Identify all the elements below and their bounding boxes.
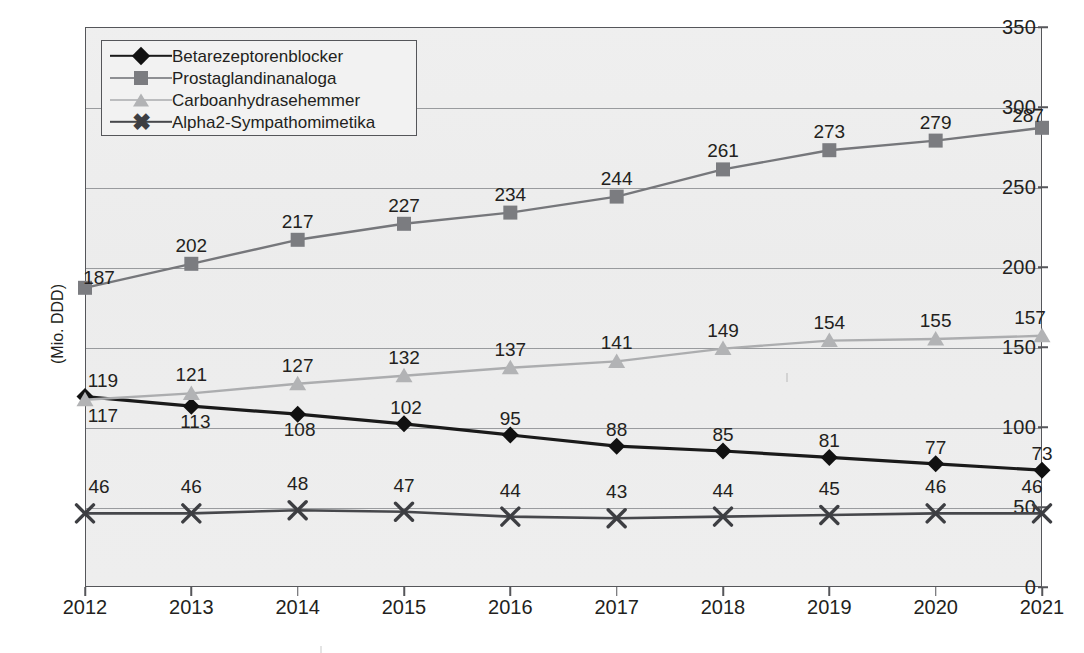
x-tick-mark (829, 587, 831, 596)
data-label: 154 (813, 312, 845, 334)
y-tick-label: 150 (1002, 336, 1036, 359)
data-label: 273 (813, 121, 845, 143)
y-tick-mark (1038, 586, 1048, 588)
data-label: 149 (707, 320, 739, 342)
x-tick-label: 2012 (63, 596, 108, 619)
x-tick-mark (297, 587, 299, 596)
data-label: 117 (88, 405, 118, 427)
x-tick-mark (935, 587, 937, 596)
legend-item-label: Betarezeptorenblocker (172, 48, 343, 65)
x-tick-label: 2017 (594, 596, 639, 619)
x-tick-label: 2015 (382, 596, 427, 619)
y-tick-label: 250 (1002, 176, 1036, 199)
scan-artifact (786, 373, 788, 382)
y-tick-label: 50 (1013, 496, 1036, 519)
gridline (86, 428, 1041, 429)
data-label: 121 (175, 364, 207, 386)
legend-item-label: Alpha2-Sympathomimetika (172, 114, 375, 131)
y-tick-mark (1038, 186, 1048, 188)
data-label: 187 (83, 267, 115, 289)
y-tick-label: 200 (1002, 256, 1036, 279)
data-label: 137 (494, 339, 526, 361)
x-tick-label: 2013 (169, 596, 214, 619)
x-tick-label: 2019 (807, 596, 852, 619)
data-label: 157 (1014, 307, 1046, 329)
y-tick-mark (1038, 26, 1048, 28)
data-label: 234 (494, 184, 526, 206)
legend-item: Betarezeptorenblocker (102, 45, 416, 67)
legend-item: Prostaglandinanaloga (102, 67, 416, 89)
legend-item: ✖ Alpha2-Sympathomimetika (102, 111, 416, 133)
chart-legend: Betarezeptorenblocker Prostaglandinanalo… (101, 40, 417, 136)
diamond-marker-icon (110, 45, 172, 67)
y-tick-mark (1038, 426, 1048, 428)
data-label: 155 (920, 310, 952, 332)
data-label: 85 (712, 424, 733, 446)
square-marker-icon (110, 67, 172, 89)
legend-item-label: Prostaglandinanaloga (172, 70, 336, 87)
x-tick-label: 2016 (488, 596, 533, 619)
x-tick-label: 2018 (701, 596, 746, 619)
data-label: 81 (819, 430, 840, 452)
scan-artifact (320, 646, 322, 653)
data-label: 46 (1021, 476, 1042, 498)
data-label: 127 (282, 355, 314, 377)
y-axis-title: (Mio. DDD) (49, 284, 67, 364)
data-label: 217 (282, 211, 314, 233)
x-marker-icon: ✖ (110, 111, 172, 133)
data-label: 43 (606, 481, 627, 503)
data-label: 46 (181, 476, 202, 498)
y-tick-label: 100 (1002, 416, 1036, 439)
data-label: 202 (175, 235, 207, 257)
data-label: 44 (500, 480, 521, 502)
x-tick-mark (1041, 587, 1043, 596)
y-tick-mark (1038, 506, 1048, 508)
y-axis: (Mio. DDD) (0, 0, 85, 647)
gridline (86, 268, 1041, 269)
gridline (86, 508, 1041, 509)
data-label: 119 (88, 370, 118, 392)
y-tick-mark (1038, 266, 1048, 268)
data-label: 244 (601, 168, 633, 190)
data-label: 88 (606, 419, 627, 441)
data-label: 108 (284, 419, 316, 441)
data-label: 287 (1012, 105, 1044, 127)
data-label: 227 (388, 195, 420, 217)
y-tick-mark (1038, 346, 1048, 348)
data-label: 279 (920, 112, 952, 134)
x-tick-label: 2014 (275, 596, 320, 619)
x-tick-label: 2021 (1020, 596, 1065, 619)
x-tick-mark (403, 587, 405, 596)
data-label: 46 (88, 476, 109, 498)
data-label: 46 (925, 476, 946, 498)
x-tick-mark (722, 587, 724, 596)
gridline (86, 188, 1041, 189)
data-label: 77 (925, 437, 946, 459)
x-tick-label: 2020 (913, 596, 958, 619)
y-tick-label: 350 (1002, 16, 1036, 39)
data-label: 102 (390, 397, 422, 419)
data-label: 45 (819, 478, 840, 500)
data-label: 261 (707, 140, 739, 162)
gridline (86, 348, 1041, 349)
x-tick-mark (191, 587, 193, 596)
data-label: 141 (601, 332, 633, 354)
data-label: 47 (393, 475, 414, 497)
data-label: 73 (1031, 443, 1052, 465)
data-label: 48 (287, 473, 308, 495)
data-label: 113 (180, 411, 210, 433)
x-tick-mark (84, 587, 86, 596)
x-tick-mark (510, 587, 512, 596)
data-label: 95 (500, 408, 521, 430)
data-label: 44 (712, 480, 733, 502)
x-tick-mark (616, 587, 618, 596)
legend-item-label: Carboanhydrasehemmer (172, 92, 360, 109)
data-label: 132 (388, 347, 420, 369)
